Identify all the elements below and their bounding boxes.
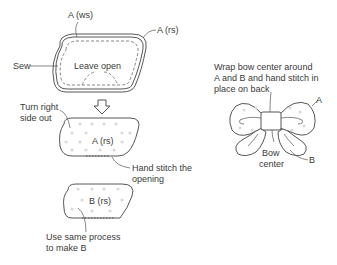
label-step2-a-rs: A (rs) bbox=[92, 136, 114, 147]
label-turn-right-line2: side out bbox=[20, 113, 52, 124]
arrow-down-icon bbox=[94, 100, 110, 114]
label-hand-stitch-line2: opening bbox=[132, 174, 164, 185]
label-turn-right-line1: Turn right bbox=[20, 102, 58, 113]
label-a-ws: A (ws) bbox=[68, 10, 93, 21]
label-leave-open: Leave open bbox=[74, 61, 121, 72]
bow-instruction-line3: place on back bbox=[214, 84, 270, 95]
bow-label-b: B bbox=[309, 155, 315, 166]
label-b-rs: B (rs) bbox=[89, 196, 111, 207]
label-hand-stitch-line1: Hand stitch the bbox=[132, 163, 192, 174]
label-a-rs: A (rs) bbox=[157, 25, 179, 36]
label-same-process-line2: to make B bbox=[46, 243, 87, 254]
label-same-process-line1: Use same process bbox=[46, 232, 121, 243]
bow-instruction-line2: A and B and hand stitch in bbox=[214, 73, 319, 84]
step1-leader-lines bbox=[30, 22, 156, 66]
bow-center-label-line2: center bbox=[259, 159, 284, 170]
label-sew: Sew bbox=[13, 61, 31, 72]
bow-center-label-line1: Bow bbox=[262, 148, 280, 159]
bow-label-a: A bbox=[316, 95, 322, 106]
bow-instruction-line1: Wrap bow center around bbox=[214, 62, 312, 73]
diagram-canvas bbox=[0, 0, 337, 265]
